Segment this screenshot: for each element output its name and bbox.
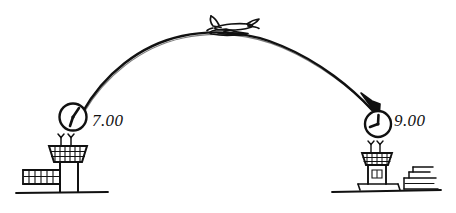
flight-arc-group <box>82 32 380 118</box>
sketch-drawing <box>0 0 456 213</box>
ground-line-left <box>16 192 108 193</box>
sketch-canvas: 7.00 9.00 <box>0 0 456 213</box>
arrival-control-tower <box>358 141 438 190</box>
ground-line-right <box>332 190 441 192</box>
departure-time-label: 7.00 <box>92 111 123 131</box>
departure-control-tower <box>23 134 87 192</box>
arrival-time-label: 9.00 <box>394 111 425 131</box>
flight-arc-shade <box>83 34 371 114</box>
departure-clock <box>60 104 87 131</box>
arrival-clock <box>365 111 391 137</box>
